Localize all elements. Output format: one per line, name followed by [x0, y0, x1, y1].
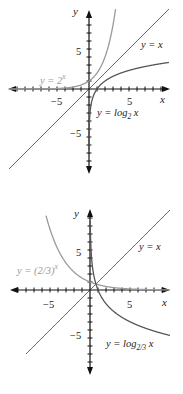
plot1-canvas: y x −5 5 5 −5 y = 2x y = x y = log2 x [0, 0, 183, 197]
x-tick-label-pos5: 5 [127, 299, 132, 310]
y-axis-down-arrow-icon [87, 367, 93, 375]
y-axis-down-arrow-icon [86, 166, 92, 174]
x-tick-label-pos5: 5 [127, 96, 132, 107]
y-axis-label: y [72, 5, 78, 17]
exponential-log-base-two-thirds-plot: y x −5 5 5 −5 y = (2/3)x y = x y = log2/… [0, 197, 183, 394]
x-axis-left-arrow-icon [10, 287, 18, 293]
x-axis-right-arrow-icon [162, 86, 170, 92]
plot2-canvas: y x −5 5 5 −5 y = (2/3)x y = x y = log2/… [0, 197, 183, 394]
exponential-curve [46, 216, 170, 290]
y-axis-up-arrow-icon [87, 209, 93, 217]
y-tick-label-neg5: −5 [70, 128, 81, 139]
logarithm-label: y = log2 x [96, 107, 139, 121]
y-tick-label-pos5: 5 [76, 247, 81, 258]
y-tick-label-pos5: 5 [76, 46, 81, 57]
x-tick-label-neg5: −5 [43, 299, 54, 310]
y-axis-label: y [73, 207, 79, 219]
y-tick-label-neg5: −5 [70, 330, 81, 341]
identity-label: y = x [138, 241, 161, 252]
exponential-log-base2-plot: y x −5 5 5 −5 y = 2x y = x y = log2 x [0, 0, 183, 197]
identity-line [26, 210, 170, 354]
x-axis-label: x [159, 93, 165, 105]
exponential-label: y = (2/3)x [16, 262, 58, 277]
x-tick-label-neg5: −5 [51, 96, 62, 107]
exponential-label: y = 2x [39, 72, 66, 86]
logarithm-label: y = log2/3 x [105, 338, 154, 352]
identity-label: y = x [140, 39, 163, 50]
x-axis-label: x [161, 296, 167, 308]
